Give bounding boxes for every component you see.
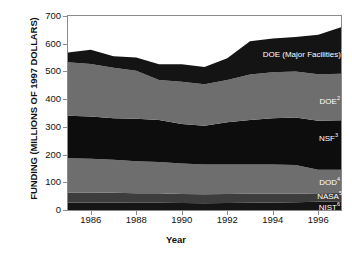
x-tick-mark [182, 211, 183, 215]
series-label-doe-major-facilities: DOE (Major Facilities)1 [263, 50, 344, 59]
x-tick-mark [273, 211, 274, 215]
stacked-area-paths [68, 16, 341, 210]
series-label-nasa: NASA5 [317, 192, 342, 201]
plot-area [67, 15, 342, 211]
series-label-footnote-marker: 1 [341, 48, 344, 54]
series-label-nsf: NSF3 [319, 134, 338, 143]
y-tick-label: 300 [29, 122, 61, 132]
series-label-footnote-marker: 6 [337, 201, 340, 207]
y-tick-label: 400 [29, 94, 61, 104]
series-label-text: DOE (Major Facilities) [263, 50, 341, 59]
y-tick-label: 600 [29, 39, 61, 49]
x-tick-mark [227, 211, 228, 215]
series-label-footnote-marker: 5 [339, 190, 342, 196]
x-tick-label: 1986 [71, 215, 111, 225]
y-tick-label: 500 [29, 66, 61, 76]
y-tick-label: 700 [29, 11, 61, 21]
series-label-nist: NIST6 [319, 203, 340, 212]
y-tick-label: 0 [29, 205, 61, 215]
series-label-footnote-marker: 4 [337, 176, 340, 182]
stacked-area-chart-figure: FUNDING (MILLIONS OF 1997 DOLLARS) 01002… [0, 0, 352, 257]
y-tick-label: 200 [29, 150, 61, 160]
series-label-dod: DOD4 [319, 178, 340, 187]
series-label-text: DOD [319, 178, 337, 187]
series-label-text: NSF [319, 134, 335, 143]
series-label-text: NIST [319, 203, 337, 212]
series-label-text: NASA [317, 192, 339, 201]
x-axis-title: Year [0, 234, 352, 245]
x-tick-label: 1996 [298, 215, 338, 225]
x-tick-label: 1990 [162, 215, 202, 225]
x-tick-mark [91, 211, 92, 215]
series-label-footnote-marker: 3 [335, 132, 338, 138]
series-label-text: DOE [320, 97, 337, 106]
x-tick-label: 1988 [116, 215, 156, 225]
series-label-doe: DOE2 [320, 97, 340, 106]
x-tick-label: 1992 [207, 215, 247, 225]
x-tick-mark [136, 211, 137, 215]
series-label-footnote-marker: 2 [337, 95, 340, 101]
x-tick-label: 1994 [253, 215, 293, 225]
y-tick-label: 100 [29, 177, 61, 187]
